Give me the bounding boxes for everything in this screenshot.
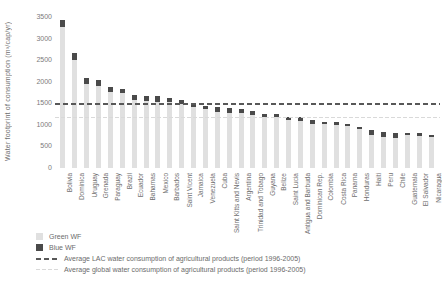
blue-wf-segment (60, 20, 65, 27)
bar-saint-lucia (286, 117, 291, 168)
x-label-el-salvador: El Salvador (423, 173, 430, 206)
green-wf-segment (215, 112, 220, 168)
x-label-haiti: Haiti (375, 173, 382, 186)
x-label-peru: Peru (387, 173, 394, 187)
blue-wf-swatch (36, 244, 43, 251)
x-label-grenada: Grenada (102, 173, 109, 198)
x-label-barbados: Barbados (173, 173, 180, 201)
y-tick-2000: 2000 (22, 78, 52, 86)
x-label-trinidad-and-tobago: Trinidad and Tobago (256, 173, 263, 232)
bar-ecuador (132, 95, 137, 168)
bar-haiti (369, 130, 374, 168)
legend-row-green-wf: Green WF (36, 231, 306, 242)
green-wf-segment (286, 120, 291, 168)
legend-label-blue-wf: Blue WF (49, 244, 76, 251)
green-wf-segment (345, 126, 350, 168)
x-label-honduras: Honduras (363, 173, 370, 201)
reference-line-lac-average (55, 103, 440, 105)
legend: Green WF Blue WF Average LAC water consu… (36, 231, 306, 275)
x-label-panama: Panama (351, 173, 358, 197)
green-wf-segment (429, 137, 434, 168)
x-label-chile: Chile (399, 173, 406, 188)
legend-row-lac-average: Average LAC water consumption of agricul… (36, 253, 306, 264)
bar-nicaragua (429, 135, 434, 168)
x-label-nicaragua: Nicaragua (435, 173, 442, 203)
bar-uruguay (84, 78, 89, 168)
y-tick-1000: 1000 (22, 121, 52, 129)
x-label-costa-rica: Costa Rica (340, 173, 347, 205)
x-label-saint-vicent: Saint Vicent (185, 173, 192, 208)
x-label-paraguay: Paraguay (114, 173, 121, 201)
reference-line-global-average (55, 117, 440, 118)
y-tick-3500: 3500 (22, 13, 52, 21)
green-wf-segment (250, 115, 255, 168)
bar-barbados (167, 98, 172, 168)
x-label-bolivia: Bolivia (66, 173, 73, 192)
x-label-bahamas: Bahamas (150, 173, 157, 200)
x-label-dominica: Dominica (78, 173, 85, 200)
bar-venezuela (203, 106, 208, 168)
bar-bahamas (144, 96, 149, 168)
bar-belize (274, 114, 279, 168)
bar-dominican-rep (310, 120, 315, 168)
green-wf-segment (310, 124, 315, 168)
bar-grenada (96, 80, 101, 168)
green-wf-segment (72, 60, 77, 168)
x-label-mexico: Mexico (161, 173, 168, 194)
green-wf-segment (357, 129, 362, 168)
green-wf-segment (322, 124, 327, 168)
bar-honduras (357, 127, 362, 168)
green-wf-swatch (36, 233, 43, 240)
green-wf-segment (191, 107, 196, 168)
bar-trinidad-and-tobago (250, 111, 255, 168)
x-label-argentina: Argentina (245, 173, 252, 201)
green-wf-segment (274, 117, 279, 168)
bar-paraguay (108, 87, 113, 168)
legend-row-global-average: Average global water consumption of agri… (36, 264, 306, 275)
bar-colombia (322, 122, 327, 168)
bar-peru (381, 132, 386, 168)
green-wf-segment (417, 136, 422, 168)
x-label-cuba: Cuba (221, 173, 228, 189)
x-label-belize: Belize (280, 173, 287, 191)
green-wf-segment (96, 86, 101, 168)
y-tick-3000: 3000 (22, 35, 52, 43)
y-tick-1500: 1500 (22, 99, 52, 107)
green-wf-segment (132, 100, 137, 168)
green-wf-segment (60, 27, 65, 168)
bar-brazil (120, 89, 125, 168)
bar-dominica (72, 53, 77, 168)
lac-average-line-swatch (36, 258, 58, 260)
green-wf-segment (179, 104, 184, 168)
green-wf-segment (405, 135, 410, 168)
global-average-line-swatch (36, 269, 58, 270)
bar-panama (345, 124, 350, 168)
x-label-uruguay: Uruguay (90, 173, 97, 198)
x-label-dominican-rep: Dominican Rep. (316, 173, 323, 219)
green-wf-segment (84, 84, 89, 168)
bar-cuba (215, 107, 220, 168)
x-label-brazil: Brazil (126, 173, 133, 189)
bar-guatemala (405, 133, 410, 168)
green-wf-segment (369, 135, 374, 168)
bar-chile (393, 133, 398, 168)
bar-el-salvador (417, 133, 422, 168)
legend-label-lac-average: Average LAC water consumption of agricul… (64, 255, 300, 262)
green-wf-segment (239, 113, 244, 168)
y-tick-2500: 2500 (22, 56, 52, 64)
x-label-jamaica: Jamaica (197, 173, 204, 197)
x-label-colombia: Colombia (328, 173, 335, 200)
bar-jamaica (191, 103, 196, 168)
x-label-antigua-and-barbuda: Antigua and Barbuda (304, 173, 311, 234)
green-wf-segment (227, 113, 232, 168)
green-wf-segment (334, 125, 339, 168)
x-label-ecuador: Ecuador (138, 173, 145, 197)
x-label-guyana: Guyana (268, 173, 275, 196)
y-tick-0: 0 (22, 164, 52, 172)
y-axis-title: Water footprint of consumption (m³/cap/y… (4, 8, 11, 174)
legend-label-green-wf: Green WF (49, 233, 81, 240)
green-wf-segment (155, 102, 160, 168)
green-wf-segment (167, 102, 172, 168)
green-wf-segment (144, 101, 149, 168)
